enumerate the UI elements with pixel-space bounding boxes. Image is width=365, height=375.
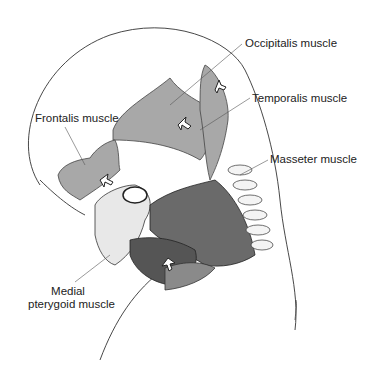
label-masseter: Masseter muscle [270, 153, 357, 166]
neck-outline [100, 268, 165, 360]
label-medial-line2: pterygoid muscle [28, 298, 108, 311]
label-temporalis: Temporalis muscle [252, 92, 347, 105]
label-medial-pterygoid: Medial pterygoid muscle [28, 285, 108, 311]
label-medial-line1: Medial [28, 285, 108, 298]
label-frontalis: Frontalis muscle [35, 112, 119, 125]
frontalis-muscle [58, 140, 120, 200]
anatomy-illustration [0, 0, 365, 375]
label-occipitalis: Occipitalis muscle [245, 37, 337, 50]
orbit [123, 187, 147, 203]
lower-muscle-flap [165, 263, 215, 290]
temporalis-muscle [113, 78, 210, 160]
occipitalis-muscle [200, 65, 228, 180]
